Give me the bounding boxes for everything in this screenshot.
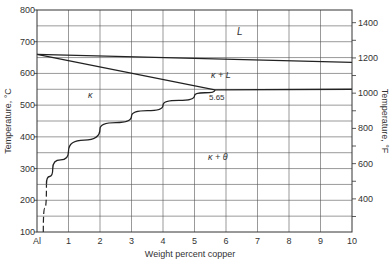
region-label-liquid: L	[237, 26, 243, 37]
solidus-line	[37, 54, 215, 90]
y-right-tick-label: 800	[358, 123, 373, 133]
y-tick-label: 800	[20, 5, 35, 15]
phase-diagram-chart: Al12345678910 100200300400500600700800 4…	[0, 0, 390, 262]
x-tick-label: 4	[160, 236, 165, 246]
x-tick-label: 5	[192, 236, 197, 246]
x-tick-label: 3	[129, 236, 134, 246]
x-axis-ticks: Al12345678910	[33, 236, 357, 246]
solvus-line-dashed	[43, 184, 46, 232]
x-tick-label: 2	[97, 236, 102, 246]
region-label-kappa-theta: κ + θ	[208, 152, 228, 162]
y-axis-right-label: Temperature, °F	[380, 89, 390, 154]
y-right-tick-label: 1400	[358, 18, 378, 28]
y-right-tick-label: 600	[358, 159, 373, 169]
y-axis-label: Temperature, °C	[3, 88, 13, 154]
x-tick-label: 10	[347, 236, 357, 246]
grid-lines	[37, 10, 352, 232]
y-tick-label: 100	[20, 227, 35, 237]
x-axis-label: Weight percent copper	[145, 249, 235, 259]
y-tick-label: 300	[20, 164, 35, 174]
eutectic-composition-label: 5.65	[209, 93, 225, 102]
y-right-tick-label: 1200	[358, 53, 378, 63]
y-tick-label: 200	[20, 195, 35, 205]
x-tick-label: 1	[66, 236, 71, 246]
y-tick-label: 700	[20, 37, 35, 47]
x-tick-label: 8	[286, 236, 291, 246]
y-right-tick-label: 400	[358, 194, 373, 204]
x-tick-label: 9	[318, 236, 323, 246]
y-axis-ticks: 100200300400500600700800	[20, 5, 37, 237]
solvus-line	[46, 90, 215, 185]
x-tick-label: Al	[33, 236, 41, 246]
x-tick-label: 6	[223, 236, 228, 246]
y-tick-label: 600	[20, 68, 35, 78]
region-label-kappa: κ	[88, 90, 93, 100]
y-tick-label: 500	[20, 100, 35, 110]
y-right-tick-label: 1000	[358, 88, 378, 98]
x-tick-label: 7	[255, 236, 260, 246]
eutectic-isotherm-line	[215, 89, 352, 90]
y-tick-label: 400	[20, 132, 35, 142]
region-label-kappa-liquid: κ + L	[211, 70, 231, 80]
y-axis-right-ticks: 400600800100012001400	[352, 18, 378, 217]
